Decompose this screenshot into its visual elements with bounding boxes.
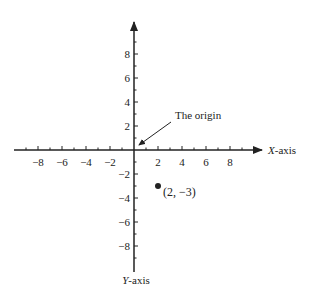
y-tick-label: −4 (118, 192, 130, 204)
x-tick-labels: −8 −6 −4 −2 2 4 6 8 (32, 156, 233, 168)
y-tick-label: −6 (118, 216, 130, 228)
x-tick-label: 8 (227, 156, 233, 168)
x-tick-label: −6 (56, 156, 68, 168)
x-axis-label: X-axis (267, 144, 296, 156)
x-tick-label: −2 (104, 156, 116, 168)
y-tick-label: 2 (125, 120, 131, 132)
origin-arrow (139, 122, 171, 145)
y-tick-label: −2 (118, 168, 130, 180)
x-tick-label: 2 (155, 156, 161, 168)
x-tick-label: 4 (179, 156, 185, 168)
origin-label: The origin (175, 109, 222, 121)
point-label: (2, −3) (163, 185, 196, 199)
y-tick-label: −8 (118, 240, 130, 252)
x-tick-label: −4 (80, 156, 92, 168)
coordinate-plane: −8 −6 −4 −2 2 4 6 8 8 6 4 2 −2 −4 −6 −8 … (0, 0, 309, 295)
x-tick-label: 6 (203, 156, 209, 168)
x-tick-label: −8 (32, 156, 44, 168)
y-tick-label: 4 (125, 96, 131, 108)
y-tick-label: 8 (125, 48, 131, 60)
data-point (155, 183, 161, 189)
y-axis-label: Y-axis (122, 274, 150, 286)
y-tick-label: 6 (125, 72, 131, 84)
